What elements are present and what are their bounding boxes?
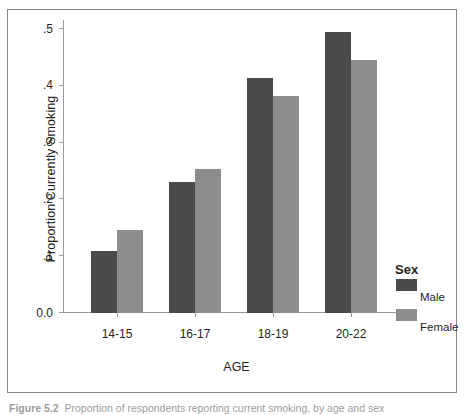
legend-swatch-female	[396, 309, 417, 321]
bar-male-18-19	[247, 78, 273, 313]
y-axis-tick: .3	[59, 142, 63, 143]
legend: Sex MaleFemale	[394, 262, 465, 337]
x-axis-tick-label: 20-22	[336, 327, 367, 341]
x-axis-tick	[195, 313, 196, 317]
y-axis-tick-label: 0.0	[36, 306, 53, 320]
caption-figure-number: Figure 5.2	[9, 402, 59, 414]
x-axis-title: AGE	[63, 360, 410, 374]
bar-male-14-15	[91, 251, 117, 313]
bar-female-18-19	[273, 96, 299, 313]
y-axis-tick: .4	[59, 85, 63, 86]
x-axis-tick	[273, 313, 274, 317]
x-axis-tick	[117, 313, 118, 317]
legend-entry: Female	[394, 309, 465, 337]
legend-entry-label: Male	[420, 291, 445, 303]
bar-female-14-15	[117, 230, 143, 313]
chart-frame: Proportion Currently Smoking 0.0.1.2.3.4…	[7, 9, 457, 393]
figure-caption: Figure 5.2 Proportion of respondents rep…	[9, 402, 459, 415]
y-axis-tick-label: .1	[43, 249, 53, 263]
y-axis-line	[63, 20, 64, 313]
y-axis-tick-label: .5	[43, 22, 53, 36]
y-axis-tick-label: .3	[43, 135, 53, 149]
bar-group: 20-22	[325, 29, 377, 313]
figure-container: Proportion Currently Smoking 0.0.1.2.3.4…	[0, 0, 465, 415]
x-axis-tick	[351, 313, 352, 317]
bar-group: 18-19	[247, 29, 299, 313]
legend-entry-label: Female	[420, 321, 458, 333]
x-axis-tick-label: 14-15	[102, 327, 133, 341]
x-axis-tick-label: 16-17	[180, 327, 211, 341]
bar-male-16-17	[169, 182, 195, 313]
caption-text: Proportion of respondents reporting curr…	[64, 402, 384, 414]
y-axis-tick: .2	[59, 198, 63, 199]
bar-male-20-22	[325, 32, 351, 313]
x-axis-tick-label: 18-19	[258, 327, 289, 341]
legend-swatch-male	[396, 279, 417, 291]
plot-area: 0.0.1.2.3.4.5 14-1516-1718-1920-22	[63, 29, 354, 313]
bar-female-16-17	[195, 169, 221, 313]
bar-female-20-22	[351, 60, 377, 313]
y-axis-tick: .5	[59, 28, 63, 29]
legend-entry: Male	[394, 279, 465, 307]
bar-group: 16-17	[169, 29, 221, 313]
y-axis-title: Proportion Currently Smoking	[44, 59, 58, 299]
y-axis-tick-label: .2	[43, 192, 53, 206]
y-axis-tick: 0.0	[59, 312, 63, 313]
legend-entries: MaleFemale	[394, 279, 465, 337]
y-axis-tick: .1	[59, 255, 63, 256]
y-axis-tick-label: .4	[43, 78, 53, 92]
legend-title: Sex	[395, 262, 465, 277]
bar-group: 14-15	[91, 29, 143, 313]
